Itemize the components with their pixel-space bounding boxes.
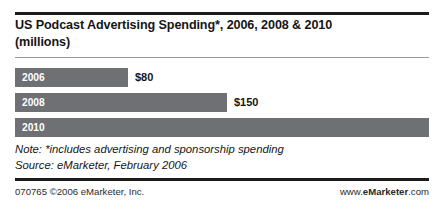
- note-line: Note: *includes advertising and sponsors…: [15, 142, 429, 158]
- bar-category-label: 2008: [22, 93, 45, 112]
- chart-title: US Podcast Advertising Spending*, 2006, …: [15, 17, 425, 50]
- chart-notes: Note: *includes advertising and sponsors…: [15, 142, 429, 173]
- title-divider: [15, 57, 429, 58]
- bar-2010: [15, 118, 429, 137]
- bar-value-label: $300: [0, 118, 8, 137]
- copyright-text: 070765 ©2006 eMarketer, Inc.: [15, 186, 144, 197]
- bar-2008: [15, 93, 227, 112]
- bottom-divider: [15, 178, 429, 181]
- bar-value-label: $150: [234, 93, 258, 112]
- top-divider: [15, 12, 429, 15]
- source-line: Source: eMarketer, February 2006: [15, 158, 429, 174]
- chart-footer: 070765 ©2006 eMarketer, Inc. www.eMarket…: [15, 186, 429, 202]
- bar-value-label: $80: [135, 68, 153, 87]
- bar-chart-plot-area: 2006 $80 2008 $150 2010 $300: [15, 66, 429, 138]
- chart-card: US Podcast Advertising Spending*, 2006, …: [0, 0, 445, 207]
- url-prefix: www.: [340, 186, 363, 197]
- website-url: www.eMarketer.com: [340, 186, 429, 197]
- url-brand: eMarketer: [363, 186, 408, 197]
- chart-title-line-1: US Podcast Advertising Spending*, 2006, …: [15, 17, 425, 34]
- bar-category-label: 2010: [22, 118, 45, 137]
- chart-title-line-2: (millions): [15, 34, 425, 51]
- url-suffix: .com: [408, 186, 429, 197]
- bar-category-label: 2006: [22, 68, 45, 87]
